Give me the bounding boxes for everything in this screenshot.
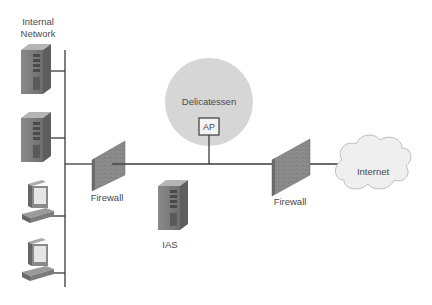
firewall-left-label: Firewall [82, 192, 132, 204]
firewall-icon [92, 141, 125, 191]
firewall-icon [272, 139, 310, 196]
internet-label: Internet [348, 166, 398, 178]
computer-icon [22, 238, 54, 281]
internal-network-label-line2: Network [8, 28, 68, 40]
server-icon [21, 44, 51, 94]
cloud-icon [335, 135, 411, 189]
delicatessen-label: Delicatessen [169, 96, 249, 108]
ap-label: AP [199, 121, 219, 133]
internal-network-label: Internal Network [8, 16, 68, 40]
firewall-right-label: Firewall [262, 196, 318, 208]
server-icon [158, 180, 188, 230]
network-diagram-canvas [0, 0, 432, 305]
ias-label: IAS [150, 239, 190, 251]
computer-icon [22, 180, 54, 223]
internal-network-label-line1: Internal [8, 16, 68, 28]
server-icon [21, 112, 51, 162]
